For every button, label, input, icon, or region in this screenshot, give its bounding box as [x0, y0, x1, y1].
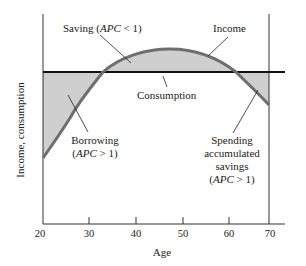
consumption-label: Consumption — [137, 89, 197, 101]
x-axis-title: Age — [153, 246, 171, 258]
saving-leader — [100, 35, 131, 63]
x-tick-label: 30 — [84, 228, 95, 239]
x-tick-label: 70 — [265, 228, 276, 239]
spending-label-1: Spending — [211, 134, 253, 146]
spending-leader — [233, 90, 258, 133]
spending-label-3: savings — [216, 160, 249, 172]
x-tick-label: 60 — [224, 228, 235, 239]
borrowing-label: Borrowing — [71, 134, 119, 146]
y-axis-title: Income, consumption — [14, 82, 26, 178]
x-tick-label: 20 — [35, 228, 46, 239]
x-tick-label: 40 — [131, 228, 142, 239]
saving-label: Saving (APC < 1) — [63, 22, 142, 35]
life-cycle-chart: Saving (APC < 1) Income Consumption Borr… — [0, 0, 306, 266]
income-label: Income — [213, 22, 246, 34]
spending-apc-label: (APC > 1) — [209, 173, 255, 186]
x-tick-label: 50 — [178, 228, 189, 239]
income-leader — [208, 37, 228, 56]
spending-label-2: accumulated — [204, 147, 260, 159]
consumption-leader — [163, 76, 167, 87]
borrowing-apc-label: (APC > 1) — [72, 147, 118, 160]
